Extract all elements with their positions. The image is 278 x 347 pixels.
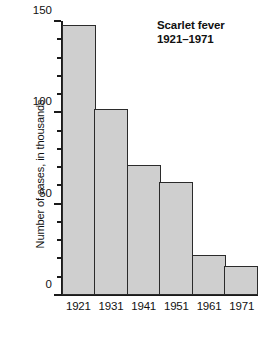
y-axis-major-tick [54, 20, 61, 22]
x-axis-tick-label: 1931 [95, 300, 128, 312]
x-axis-tick-label: 1961 [193, 300, 226, 312]
bar-1941 [127, 165, 161, 295]
y-axis-minor-tick [57, 276, 61, 278]
y-axis-minor-tick [57, 148, 61, 150]
y-axis-minor-tick [57, 130, 61, 132]
bar-series [62, 21, 258, 295]
bar-1961 [192, 255, 226, 295]
y-axis-tick-label: 50 [39, 187, 52, 199]
x-axis-tick-labels: 192119311941195119611971 [62, 300, 258, 312]
y-axis-minor-tick [57, 257, 61, 259]
x-axis-tick-label: 1921 [62, 300, 95, 312]
y-axis-minor-tick [57, 239, 61, 241]
x-axis-tick-label: 1941 [127, 300, 160, 312]
y-axis-minor-tick [57, 221, 61, 223]
y-axis-minor-tick [57, 184, 61, 186]
y-axis-tick-label: 0 [46, 278, 52, 290]
x-axis-tick-label: 1951 [160, 300, 193, 312]
y-axis-tick-label: 150 [33, 4, 52, 16]
y-axis-minor-tick [57, 38, 61, 40]
plot-area: 050100150 [61, 21, 258, 296]
bar-1951 [159, 182, 193, 295]
bar-1931 [94, 109, 128, 295]
x-axis-tick-label: 1971 [225, 300, 258, 312]
y-axis-minor-tick [57, 75, 61, 77]
bar-chart: Scarlet fever 1921–1971 Number of cases,… [0, 0, 278, 347]
y-axis-major-tick [54, 294, 61, 296]
bar-1971 [224, 266, 258, 295]
y-axis-major-tick [54, 203, 61, 205]
y-axis-minor-tick [57, 57, 61, 59]
y-axis-tick-label: 100 [33, 95, 52, 107]
bar-1921 [62, 25, 96, 295]
y-axis-minor-tick [57, 166, 61, 168]
y-axis-major-tick [54, 111, 61, 113]
y-axis-minor-tick [57, 93, 61, 95]
